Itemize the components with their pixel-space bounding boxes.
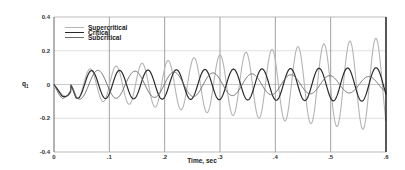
legend: Supercritical Critical Subcritical bbox=[65, 24, 128, 41]
y-tick-label: 0.4 bbox=[42, 14, 51, 20]
line-chart: 0.1.2.3.4.5.60.40.20-0.2-0.4 Supercritic… bbox=[0, 0, 405, 170]
y-tick-label: 0.2 bbox=[42, 48, 51, 54]
x-tick-label: .6 bbox=[383, 154, 389, 160]
x-tick-label: .5 bbox=[328, 154, 334, 160]
y-axis-label-subscript: 1 bbox=[26, 84, 29, 89]
y-axis-label: q1 bbox=[22, 80, 29, 89]
y-tick-label: -0.4 bbox=[40, 149, 51, 155]
x-tick-label: .2 bbox=[162, 154, 168, 160]
y-tick-label: 0 bbox=[47, 82, 51, 88]
x-tick-label: .1 bbox=[107, 154, 113, 160]
x-tick-label: .3 bbox=[217, 154, 223, 160]
y-tick-label: -0.2 bbox=[40, 115, 51, 121]
x-axis-label: Time, sec bbox=[187, 157, 217, 165]
x-tick-label: 0 bbox=[52, 154, 56, 160]
legend-label-subcritical: Subcritical bbox=[88, 34, 121, 41]
x-tick-label: .4 bbox=[273, 154, 279, 160]
